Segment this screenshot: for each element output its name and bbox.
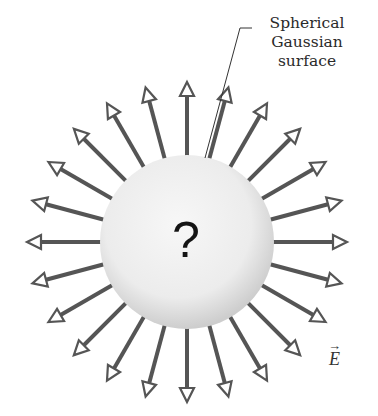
field-arrow-shaft	[208, 101, 224, 162]
field-arrow-shaft	[267, 204, 328, 220]
label-line-2: Gaussian	[248, 33, 366, 52]
arrowhead-icon	[254, 103, 267, 119]
field-arrow-shaft	[61, 284, 116, 316]
field-arrow-shaft	[208, 322, 224, 383]
field-arrow-shaft	[114, 116, 146, 171]
field-arrow-shaft	[246, 139, 291, 184]
arrowhead-icon	[180, 388, 194, 402]
arrowhead-icon	[32, 197, 47, 211]
field-arrow-shaft	[229, 314, 261, 369]
label-line-3: surface	[248, 52, 366, 71]
gaussian-surface-label: Spherical Gaussian surface	[248, 14, 366, 71]
field-symbol: E	[329, 349, 340, 370]
field-arrow-shaft	[149, 322, 165, 383]
arrowhead-icon	[107, 365, 120, 381]
field-arrow-shaft	[267, 263, 328, 279]
field-arrow-shaft	[259, 169, 314, 201]
arrowhead-icon	[333, 235, 347, 249]
arrowhead-icon	[310, 309, 326, 322]
field-arrow-shaft	[229, 116, 261, 171]
field-arrow-shaft	[114, 314, 146, 369]
gauss-law-diagram: Spherical Gaussian surface ? → E	[0, 0, 378, 416]
field-arrow-shaft	[259, 284, 314, 316]
field-arrow-shaft	[46, 263, 107, 279]
arrowhead-icon	[326, 273, 341, 287]
field-arrow-shaft	[46, 204, 107, 220]
arrowhead-icon	[254, 365, 267, 381]
unknown-charge-symbol: ?	[160, 210, 212, 270]
arrowhead-icon	[180, 82, 194, 96]
arrowhead-icon	[48, 162, 64, 175]
field-arrow-shaft	[149, 101, 165, 162]
arrowhead-icon	[310, 162, 326, 175]
arrowhead-icon	[142, 381, 156, 396]
arrowhead-icon	[27, 235, 41, 249]
arrowhead-icon	[326, 197, 341, 211]
arrowhead-icon	[32, 273, 47, 287]
arrowhead-icon	[48, 309, 64, 322]
arrowhead-icon	[142, 87, 156, 102]
field-vector-label: → E	[326, 340, 348, 370]
field-arrow-shaft	[61, 169, 116, 201]
field-arrow-shaft	[84, 139, 129, 184]
field-arrow-shaft	[84, 301, 129, 346]
label-line-1: Spherical	[248, 14, 366, 33]
field-arrow-shaft	[246, 301, 291, 346]
arrowhead-icon	[107, 103, 120, 119]
arrowhead-icon	[218, 381, 232, 396]
